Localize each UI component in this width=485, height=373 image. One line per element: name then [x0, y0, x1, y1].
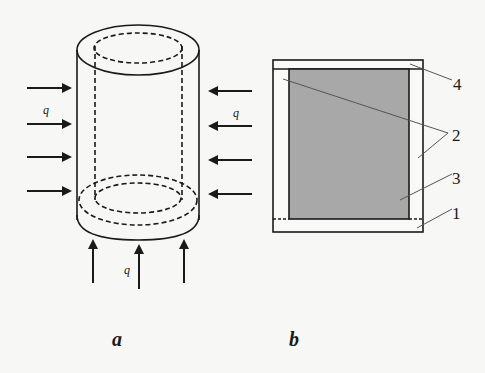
specimen-core [289, 69, 409, 219]
figure: q q q a 4 2 3 1 b [0, 0, 485, 373]
panel-label-b: b [289, 328, 299, 350]
right-load-arrows [210, 91, 252, 194]
panel-b-section [273, 60, 423, 232]
cylinder-inner-top-dashed [94, 33, 182, 63]
panel-label-a: a [112, 328, 122, 350]
callout-2: 2 [452, 126, 461, 145]
load-label-right: q [233, 106, 239, 120]
load-label-left: q [43, 103, 49, 117]
callout-1: 1 [452, 204, 461, 223]
cylinder-bottom-inner-dashed [95, 183, 181, 213]
load-label-bottom: q [124, 263, 130, 277]
callout-3: 3 [452, 169, 461, 188]
callout-4: 4 [453, 75, 462, 94]
bottom-load-arrows [93, 241, 184, 289]
cylinder-bottom-arc [77, 215, 199, 240]
panel-a-cylinder [77, 25, 199, 240]
